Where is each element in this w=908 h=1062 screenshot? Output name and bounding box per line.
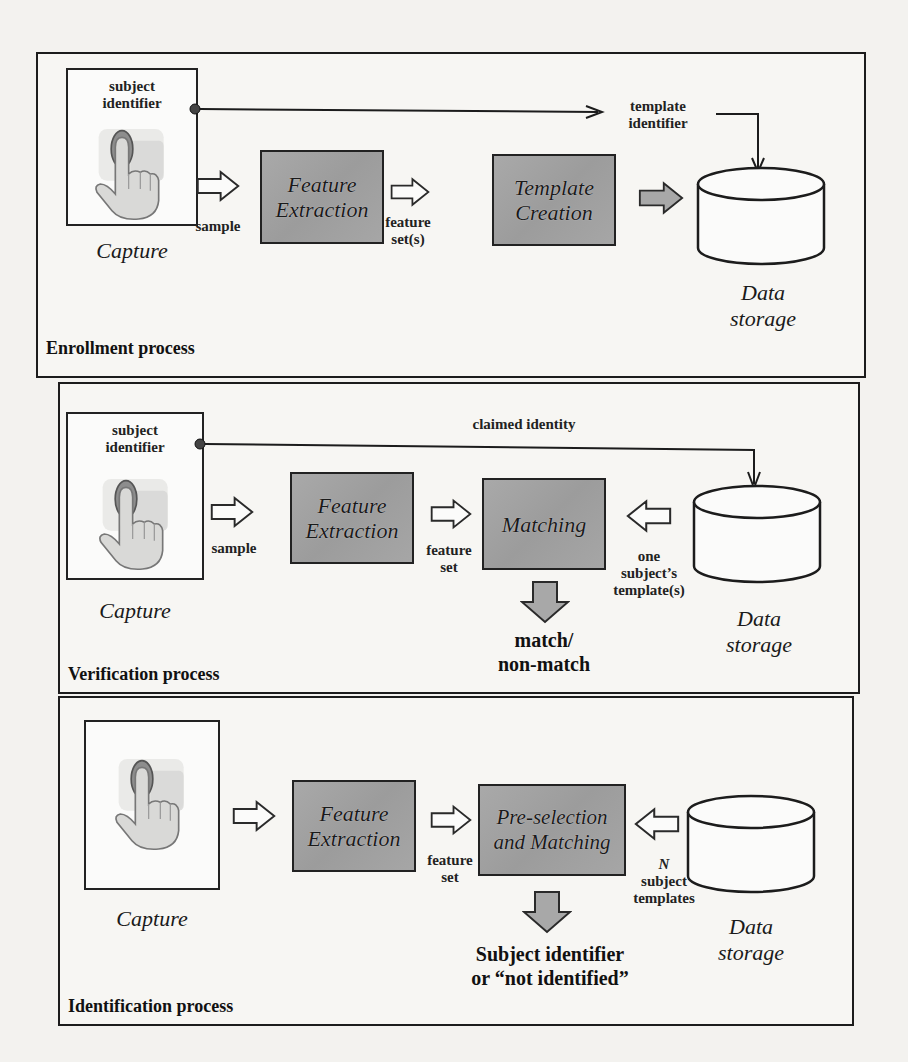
database-cylinder-icon [686,794,816,894]
data-storage-label: Data storage [686,914,816,966]
data-storage-label: Data storage [698,280,828,332]
database-cylinder-icon [696,166,826,266]
feature-set-label: feature set(s) [380,214,436,248]
sample-arrow-icon [196,168,240,204]
result-arrow-icon [520,580,570,624]
identification-capture-box [84,720,220,890]
store-arrow-icon [638,180,684,216]
matching-box: Matching [482,478,606,570]
feature-set-label: feature set [420,852,480,886]
sample-arrow-icon [232,798,276,834]
enrollment-process-title: Enrollment process [46,338,195,359]
capture-caption: Capture [84,906,220,932]
identification-process-title: Identification process [68,996,233,1017]
identification-result-label: Subject identifier or “not identified” [440,942,660,990]
dot-icon [195,439,205,449]
sample-arrow-icon [210,494,254,530]
template-arrow-icon [634,806,680,842]
match-result-label: match/ non-match [464,628,624,676]
template-creation-box: TemplateCreation [492,154,616,246]
feature-extraction-box: FeatureExtraction [292,780,416,872]
result-arrow-icon [522,890,572,934]
feature-set-arrow-icon [430,802,472,838]
finger-touch-hand-icon [104,754,200,854]
sample-label: sample [206,540,262,557]
feature-extraction-box: FeatureExtraction [290,472,414,564]
data-storage-label: Data storage [694,606,824,658]
verification-panel: subject identifier Capture claimed ident… [58,382,860,694]
feature-set-arrow-icon [390,174,430,210]
feature-set-arrow-icon [430,496,472,532]
database-cylinder-icon [692,484,822,584]
template-arrow-icon [626,498,672,534]
feature-set-label: feature set [418,542,480,576]
sample-label: sample [190,218,246,235]
template-identifier-label: template identifier [618,98,698,132]
identification-panel: Capture FeatureExtraction feature set Pr… [58,696,854,1026]
feature-extraction-box: FeatureExtraction [260,150,384,244]
dot-icon [190,104,200,114]
preselection-matching-box: Pre-selectionand Matching [478,784,626,876]
verification-process-title: Verification process [68,664,219,685]
enrollment-panel: subject identifier Capture sample Featur… [36,52,866,378]
one-subject-template-label: one subject’s template(s) [602,548,696,599]
